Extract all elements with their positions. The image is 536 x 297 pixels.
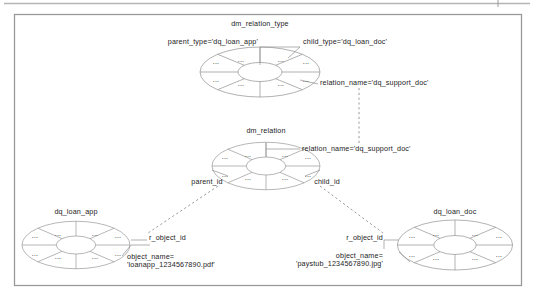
segment-dot-rt-7: ... [213,76,219,85]
segment-dot-r-5: ... [282,174,288,183]
connector-childid-robjectid [320,186,383,233]
attr-ld-r-object-id: r_object_id [305,234,383,243]
diagram-frame [15,15,522,286]
segment-dot-la-5: ... [92,253,98,262]
segment-dot-r-6: ... [245,174,251,183]
entity-title-dm-relation: dm_relation [246,127,285,136]
segment-dot-la-4: ... [115,250,121,259]
segment-dot-rt-2: ... [278,56,284,65]
segment-dot-rt-1: ... [238,56,244,65]
segment-dot-ld-1: ... [433,230,439,239]
segment-dot-ld-7: ... [409,251,415,260]
entity-title-dm-relation-type: dm_relation_type [231,20,289,29]
segment-dot-rt-4: ... [303,76,309,85]
segment-dot-r-7: ... [222,171,228,180]
segment-dot-la-8: ... [32,232,38,241]
segment-dot-rt-6: ... [238,80,244,89]
segment-dot-ld-4: ... [496,251,502,260]
segment-dot-r-8: ... [222,153,228,162]
diagram-svg [0,0,536,297]
segment-dot-ld-3: ... [496,232,502,241]
segment-dot-ld-2: ... [472,230,478,239]
segment-dot-r-4: ... [305,171,311,180]
segment-dot-la-1: ... [55,230,61,239]
segment-dot-rt-5: ... [278,80,284,89]
wheel-dq-loan-app [22,221,130,269]
segment-dot-ld-5: ... [472,254,478,263]
segment-dot-ld-6: ... [433,254,439,263]
attr-relation-name: relation_name='dq_support_doc' [302,145,411,154]
wheel-dq-loan-doc [397,220,512,270]
segment-dot-rt-3: ... [303,58,309,67]
attr-la-r-object-id: r_object_id [149,234,186,243]
attr-parent-id: parent_id [191,178,222,187]
segment-dot-r-3: ... [305,153,311,162]
attr-parent-type: parent_type='dq_loan_app' [110,38,258,47]
segment-dot-la-6: ... [55,253,61,262]
entity-title-dq-loan-app: dq_loan_app [54,208,97,217]
segment-dot-r-2: ... [282,151,288,160]
segment-dot-la-7: ... [32,250,38,259]
attr-ld-object-value: 'paystub_1234567890.jpg' [280,260,383,269]
segment-dot-la-2: ... [92,230,98,239]
attr-la-object-value: 'loanapp_1234567890.pdf' [127,261,215,270]
segment-dot-rt-8: ... [213,58,219,67]
entity-title-dq-loan-doc: dq_loan_doc [434,208,477,217]
attr-child-type: child_type='dq_loan_doc' [303,38,387,47]
attr-relation-name-type: relation_name='dq_support_doc' [320,79,429,88]
connector-parentid-robjectid [148,186,218,233]
diagram-canvas: dm_relation_type parent_type='dq_loan_ap… [0,0,536,297]
segment-dot-la-3: ... [115,232,121,241]
attr-child-id: child_id [314,178,340,187]
segment-dot-r-1: ... [245,151,251,160]
segment-dot-ld-8: ... [409,232,415,241]
